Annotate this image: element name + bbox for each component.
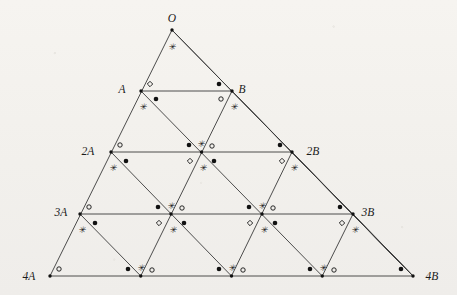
filled-dot-marker: [278, 143, 283, 148]
filled-dot-marker: [217, 267, 222, 272]
open-diamond-marker: [156, 220, 161, 225]
asterisk-marker: ✳: [137, 263, 145, 273]
vertex-label-4A: 4A: [23, 270, 37, 282]
open-circle-marker: [219, 97, 223, 101]
lattice-lines-layer: [50, 30, 413, 276]
vertex-label-O: O: [168, 12, 177, 24]
vertex-dot-marker: [139, 89, 142, 92]
open-circle-marker: [57, 267, 61, 271]
vertex-dot-marker: [321, 274, 324, 277]
asterisk-marker: ✳: [78, 225, 86, 235]
open-circle-marker: [332, 268, 336, 272]
filled-dot-marker: [187, 143, 192, 148]
asterisk-marker: ✳: [319, 263, 327, 273]
filled-dot-marker: [399, 267, 404, 272]
vertex-dot-marker: [170, 28, 173, 31]
asterisk-marker: ✳: [139, 102, 147, 112]
vertex-dot-marker: [169, 212, 172, 215]
open-diamond-marker: [147, 81, 152, 86]
filled-dot-marker: [182, 221, 187, 226]
asterisk-marker: ✳: [109, 163, 117, 173]
diagonal-left-3: [80, 214, 141, 276]
vertex-label-A: A: [117, 83, 126, 95]
asterisk-marker: ✳: [197, 139, 205, 149]
filled-dot-marker: [212, 159, 217, 164]
vertex-dot-marker: [48, 274, 51, 277]
vertex-dot-marker: [411, 274, 414, 277]
diagonal-left-1: [141, 91, 322, 276]
diagonal-rl-1: [141, 91, 232, 276]
vertex-dot-marker: [230, 274, 233, 277]
filled-dot-marker: [308, 267, 313, 272]
lattice-vertices-layer: [48, 28, 414, 277]
open-circle-marker: [87, 205, 91, 209]
open-diamond-marker: [247, 220, 252, 225]
filled-dot-marker: [124, 159, 129, 164]
open-circle-marker: [241, 268, 245, 272]
open-circle-marker: [210, 144, 214, 148]
filled-dot-marker: [156, 205, 161, 210]
filled-dot-marker: [154, 97, 159, 102]
asterisk-marker: ✳: [351, 225, 359, 235]
vertex-label-B: B: [238, 83, 245, 95]
open-diamond-marker: [279, 158, 284, 163]
vertex-dot-marker: [109, 150, 112, 153]
vertex-label-3A: 3A: [54, 206, 69, 218]
asterisk-marker: ✳: [168, 42, 176, 52]
vertex-dot-marker: [200, 150, 203, 153]
asterisk-marker: ✳: [230, 102, 238, 112]
open-diamond-marker: [187, 158, 192, 163]
vertex-dot-marker: [230, 89, 233, 92]
asterisk-marker: ✳: [199, 163, 207, 173]
filled-dot-marker: [126, 267, 131, 272]
asterisk-marker: ✳: [228, 263, 236, 273]
filled-dot-marker: [93, 221, 98, 226]
vertex-dot-marker: [260, 212, 263, 215]
vertex-label-2A: 2A: [82, 145, 96, 157]
asterisk-marker: ✳: [290, 163, 298, 173]
geometry-figure: ✳✳✳✳✳✳✳✳✳✳✳✳✳✳✳✳ OAB2A2B3A3B4A4B: [0, 0, 457, 295]
asterisk-marker: ✳: [169, 225, 177, 235]
filled-dot-marker: [273, 221, 278, 226]
filled-dot-marker: [338, 205, 343, 210]
asterisk-marker: ✳: [258, 201, 266, 211]
open-circle-marker: [118, 143, 122, 147]
filled-dot-marker: [217, 82, 222, 87]
filled-dot-marker: [247, 205, 252, 210]
open-diamond-marker: [339, 220, 344, 225]
vertex-dot-marker: [290, 150, 293, 153]
asterisk-marker: ✳: [167, 201, 175, 211]
vertex-label-3B: 3B: [361, 206, 375, 218]
vertex-label-2B: 2B: [307, 145, 320, 157]
vertex-label-4B: 4B: [426, 270, 439, 282]
open-circle-marker: [271, 206, 275, 210]
vertex-dot-marker: [351, 212, 354, 215]
asterisk-marker: ✳: [260, 225, 268, 235]
open-circle-marker: [150, 268, 154, 272]
vertex-dot-marker: [78, 212, 81, 215]
vertex-dot-marker: [139, 274, 142, 277]
vertex-labels-layer: OAB2A2B3A3B4A4B: [23, 12, 439, 282]
open-circle-marker: [180, 206, 184, 210]
